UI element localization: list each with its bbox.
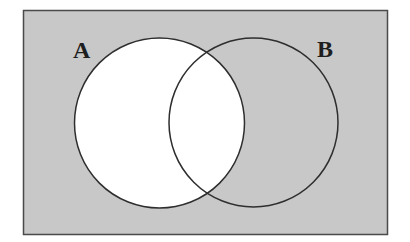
- set-b-label: B: [317, 36, 333, 62]
- set-a-label: A: [73, 37, 91, 63]
- set-a-fill: [75, 38, 245, 208]
- venn-diagram: A B: [0, 0, 410, 242]
